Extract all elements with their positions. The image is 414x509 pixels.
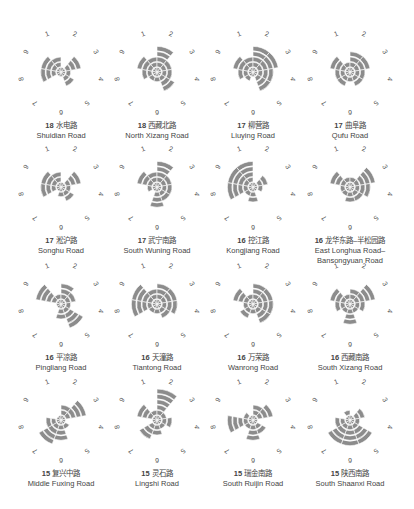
direction-label: 4 bbox=[193, 425, 201, 430]
direction-label: 3 bbox=[381, 396, 389, 403]
direction-label: 3 bbox=[188, 280, 196, 287]
direction-label: 1 bbox=[333, 378, 339, 386]
direction-label: 5 bbox=[83, 447, 91, 455]
direction-label: 5 bbox=[372, 99, 380, 107]
direction-label: 6 bbox=[348, 341, 352, 348]
direction-label: 6 bbox=[251, 224, 255, 231]
direction-label: 5 bbox=[83, 214, 91, 222]
sector-band bbox=[46, 69, 52, 79]
sector-band bbox=[341, 440, 359, 446]
direction-label: 8 bbox=[306, 424, 314, 429]
road-name-cn: 柳营路 bbox=[246, 121, 269, 130]
sector-band bbox=[248, 430, 258, 435]
road-name-cn: 水电路 bbox=[54, 121, 77, 130]
direction-label: 5 bbox=[275, 331, 283, 339]
direction-label: 2 bbox=[72, 262, 78, 270]
sector-band bbox=[335, 417, 341, 427]
count-label: 17 bbox=[45, 236, 53, 245]
count-label: 17 bbox=[334, 121, 342, 130]
direction-label: 8 bbox=[209, 76, 217, 81]
direction-label: 4 bbox=[97, 309, 105, 314]
count-label: 16 bbox=[315, 236, 323, 245]
direction-label: 8 bbox=[306, 76, 314, 81]
direction-label: 2 bbox=[264, 378, 270, 386]
count-label: 15 bbox=[141, 469, 149, 478]
direction-label: 5 bbox=[372, 447, 380, 455]
direction-label: 4 bbox=[386, 77, 394, 82]
direction-label: 4 bbox=[193, 77, 201, 82]
road-name-cn: 陕西南路 bbox=[339, 469, 369, 478]
direction-label: 2 bbox=[72, 378, 78, 386]
direction-label: 6 bbox=[251, 109, 255, 116]
direction-label: 8 bbox=[17, 424, 25, 429]
count-label: 15 bbox=[234, 469, 242, 478]
sector-band bbox=[238, 184, 244, 194]
chart-caption: 15 灵石路Lingshi Road bbox=[107, 469, 207, 489]
direction-label: 3 bbox=[188, 48, 196, 55]
direction-label: 9 bbox=[311, 48, 319, 55]
direction-label: 8 bbox=[17, 191, 25, 196]
direction-label: 8 bbox=[113, 191, 121, 196]
sector-band bbox=[150, 202, 164, 207]
road-name-cn: 平凉路 bbox=[54, 353, 77, 362]
direction-label: 4 bbox=[386, 425, 394, 430]
direction-label: 7 bbox=[320, 447, 328, 455]
direction-label: 8 bbox=[17, 308, 25, 313]
direction-label: 3 bbox=[92, 163, 100, 170]
road-name-cn: 控江路 bbox=[246, 236, 269, 245]
direction-label: 6 bbox=[251, 341, 255, 348]
count-label: 15 bbox=[331, 469, 339, 478]
sector-band bbox=[142, 301, 148, 311]
direction-label: 5 bbox=[275, 214, 283, 222]
direction-label: 1 bbox=[140, 30, 146, 38]
direction-label: 6 bbox=[155, 224, 159, 231]
direction-label: 2 bbox=[361, 145, 367, 153]
direction-label: 9 bbox=[22, 280, 30, 287]
road-name-cn: 西藏北路 bbox=[146, 121, 176, 130]
chart-caption: 15 复兴中路Middle Fuxing Road bbox=[11, 469, 111, 489]
road-name-cn: 复兴中路 bbox=[50, 469, 80, 478]
direction-label: 8 bbox=[209, 424, 217, 429]
direction-label: 3 bbox=[284, 163, 292, 170]
count-label: 16 bbox=[45, 353, 53, 362]
direction-label: 5 bbox=[83, 99, 91, 107]
chart-caption: 15 陕西南路South Shaanxi Road bbox=[300, 469, 400, 489]
direction-label: 4 bbox=[97, 77, 105, 82]
direction-label: 3 bbox=[381, 163, 389, 170]
sector-band bbox=[46, 184, 52, 194]
count-label: 17 bbox=[138, 236, 146, 245]
direction-label: 7 bbox=[31, 99, 39, 107]
direction-label: 4 bbox=[386, 192, 394, 197]
direction-label: 8 bbox=[306, 308, 314, 313]
direction-label: 3 bbox=[92, 48, 100, 55]
sector-band bbox=[335, 69, 341, 79]
direction-label: 2 bbox=[168, 262, 174, 270]
direction-label: 7 bbox=[127, 447, 135, 455]
road-name-cn: 西藏南路 bbox=[339, 353, 369, 362]
road-name-en: Middle Fuxing Road bbox=[11, 479, 111, 489]
direction-label: 3 bbox=[381, 48, 389, 55]
road-name-en: South Ruijin Road bbox=[203, 479, 303, 489]
direction-label: 6 bbox=[155, 457, 159, 464]
sector-band bbox=[345, 314, 355, 319]
direction-label: 9 bbox=[214, 396, 222, 403]
direction-label: 3 bbox=[381, 280, 389, 287]
direction-label: 9 bbox=[311, 280, 319, 287]
direction-label: 1 bbox=[140, 378, 146, 386]
road-name-cn: 曲阜路 bbox=[343, 121, 366, 130]
chart-caption: 17 武宁南路South Wuning Road bbox=[107, 236, 207, 256]
direction-label: 6 bbox=[59, 224, 63, 231]
count-label: 18 bbox=[138, 121, 146, 130]
direction-label: 7 bbox=[31, 214, 39, 222]
road-name-en: South Shaanxi Road bbox=[300, 479, 400, 489]
road-name-en: Lingshi Road bbox=[107, 479, 207, 489]
direction-label: 2 bbox=[361, 378, 367, 386]
direction-label: 7 bbox=[320, 331, 328, 339]
direction-label: 6 bbox=[59, 457, 63, 464]
sector-band bbox=[56, 314, 66, 319]
direction-label: 4 bbox=[289, 192, 297, 197]
direction-label: 1 bbox=[44, 30, 50, 38]
count-label: 16 bbox=[237, 353, 245, 362]
direction-label: 6 bbox=[348, 224, 352, 231]
road-name-cn: 天潼路 bbox=[150, 353, 173, 362]
